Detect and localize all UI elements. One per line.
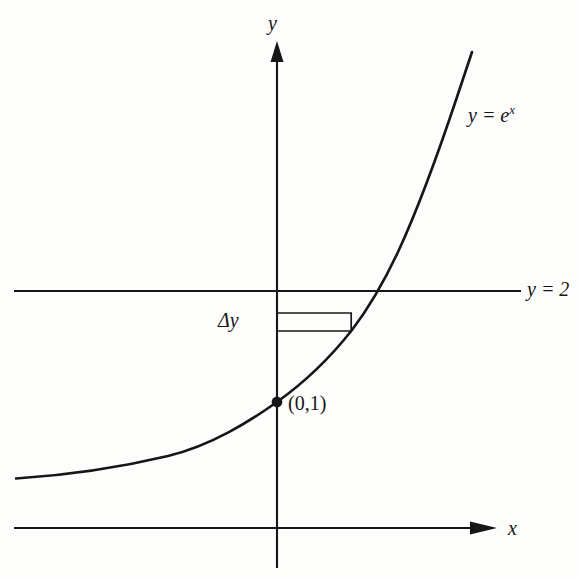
y-axis	[271, 41, 284, 568]
x-axis-label: x	[508, 518, 517, 538]
delta-y-label: Δy	[218, 310, 239, 330]
exponential-function-figure: y x y = ex y = 2 Δy (0,1)	[0, 0, 578, 578]
point-label: (0,1)	[288, 393, 326, 413]
exponential-curve	[16, 52, 472, 479]
curve-label: y = ex	[468, 105, 515, 125]
figure-canvas	[0, 0, 578, 578]
point-marker-0-1	[272, 397, 283, 408]
curve-label-base: y = e	[468, 104, 509, 126]
horizontal-line-label: y = 2	[527, 279, 569, 299]
x-axis-arrowhead	[470, 522, 497, 535]
delta-y-rectangle	[277, 313, 352, 331]
y-axis-label: y	[268, 13, 277, 33]
curve-label-exponent: x	[509, 103, 515, 117]
y-axis-arrowhead	[271, 41, 284, 62]
x-axis	[14, 522, 497, 535]
